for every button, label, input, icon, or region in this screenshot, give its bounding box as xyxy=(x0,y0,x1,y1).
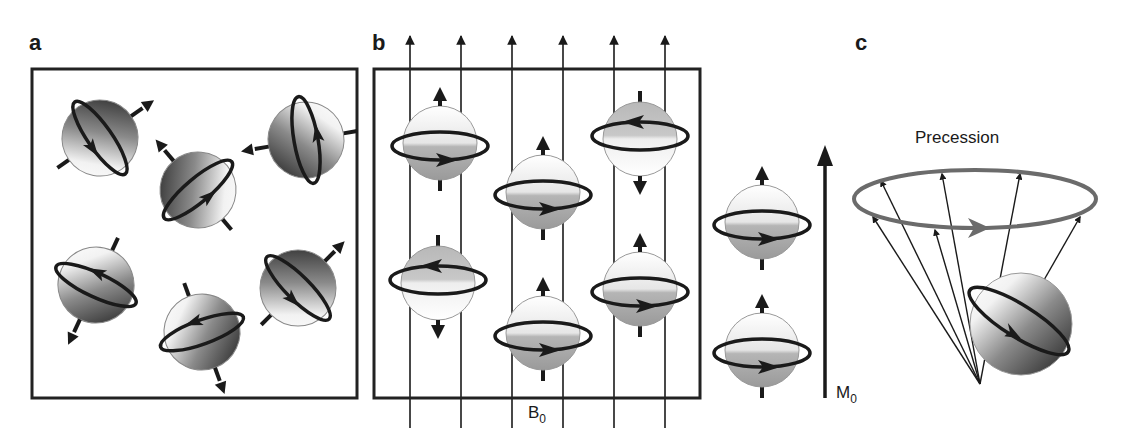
net-spins xyxy=(714,166,810,398)
aligned-spins xyxy=(390,87,688,381)
m0-label: M0 xyxy=(836,383,857,406)
panel-a: a xyxy=(28,30,376,409)
panel-b: b B0 M0 xyxy=(372,30,857,428)
panel-c: c Precession xyxy=(854,30,1096,384)
vector-arrow-icon xyxy=(942,174,980,384)
spin-up-icon xyxy=(392,87,488,191)
panel-c-label: c xyxy=(855,30,867,55)
random-spins xyxy=(28,64,376,409)
spin-up-icon xyxy=(714,294,810,398)
m0-arrow xyxy=(817,145,833,398)
vector-arrow-icon xyxy=(873,217,980,384)
spin-up-icon xyxy=(714,166,810,270)
spin-up-icon xyxy=(495,277,591,381)
vector-arrow-icon xyxy=(1044,217,1080,280)
panel-b-label: b xyxy=(372,30,385,55)
magnetization-arrowhead-icon xyxy=(817,145,833,166)
spin-up-icon xyxy=(592,233,688,337)
b0-label: B0 xyxy=(528,403,546,426)
panel-a-label: a xyxy=(29,30,42,55)
precession-label: Precession xyxy=(915,128,999,147)
spin-icon xyxy=(233,88,364,195)
nmr-spin-figure: a b B0 xyxy=(0,0,1131,448)
spin-icon xyxy=(122,111,265,258)
precessing-spin-icon xyxy=(961,273,1076,375)
spin-icon xyxy=(230,210,376,356)
spin-icon xyxy=(28,219,158,363)
vector-arrow-icon xyxy=(881,181,980,384)
spin-icon xyxy=(143,268,266,409)
spin-down-icon xyxy=(592,91,688,195)
spin-icon xyxy=(32,64,179,204)
spin-up-icon xyxy=(495,136,591,240)
spin-down-icon xyxy=(390,235,486,339)
